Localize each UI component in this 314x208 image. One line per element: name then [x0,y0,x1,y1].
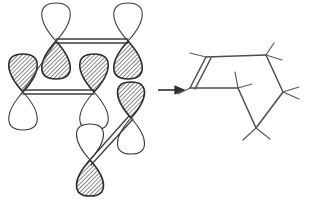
diagram-background [0,0,314,208]
orbital-diagram-svg [0,0,314,208]
figure-canvas [0,0,314,208]
